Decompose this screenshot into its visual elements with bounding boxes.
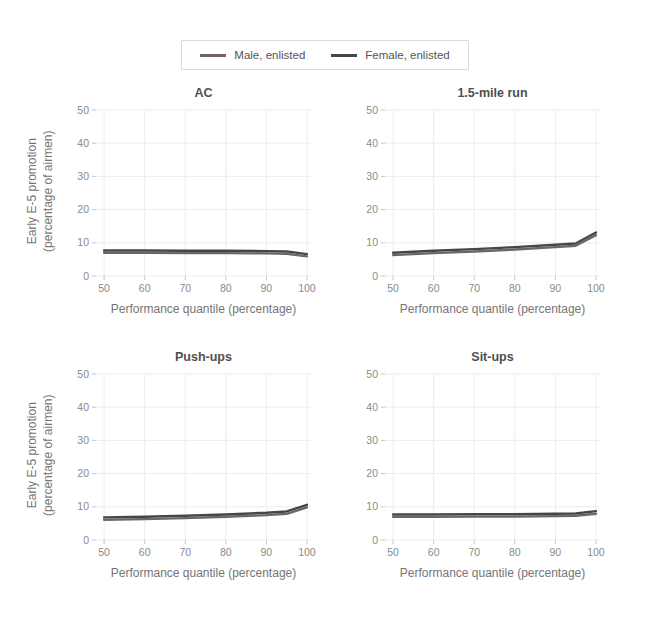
y-axis-label-top: Early E-5 promotion (percentage of airme… [18, 185, 62, 217]
plot-area: 010203040505060708090100 [62, 102, 321, 302]
svg-text:20: 20 [77, 203, 89, 215]
chart-situps-plot: 010203040505060708090100 [351, 366, 610, 566]
y-axis-label-text: Early E-5 promotion (percentage of airme… [24, 130, 56, 251]
chart-ac-plot: 010203040505060708090100 [62, 102, 321, 302]
chart-ac-xlabel: Performance quantile (percentage) [62, 302, 321, 316]
legend-item-female: Female, enlisted [331, 49, 449, 61]
svg-text:90: 90 [550, 546, 562, 558]
svg-text:50: 50 [77, 104, 89, 116]
svg-text:10: 10 [366, 500, 378, 512]
svg-text:90: 90 [261, 282, 273, 294]
plot-area: 010203040505060708090100 [351, 102, 610, 302]
legend-wrap: Male, enlisted Female, enlisted [0, 0, 650, 70]
svg-text:70: 70 [468, 546, 480, 558]
y-axis-label-line1: Early E-5 promotion [24, 394, 40, 515]
chart-pushups: Push-ups 010203040505060708090100 Perfor… [62, 350, 321, 580]
y-axis-label-text: Early E-5 promotion (percentage of airme… [24, 394, 56, 515]
series-line [393, 511, 596, 514]
svg-text:90: 90 [261, 546, 273, 558]
chart-run-xlabel: Performance quantile (percentage) [351, 302, 610, 316]
chart-run: 1.5-mile run 010203040505060708090100 Pe… [351, 86, 610, 316]
y-axis-label-line1: Early E-5 promotion [24, 130, 40, 251]
svg-text:80: 80 [220, 282, 232, 294]
svg-text:50: 50 [387, 546, 399, 558]
svg-text:10: 10 [366, 236, 378, 248]
svg-text:70: 70 [179, 282, 191, 294]
svg-text:70: 70 [179, 546, 191, 558]
svg-text:80: 80 [509, 282, 521, 294]
svg-text:30: 30 [366, 170, 378, 182]
chart-ac: AC 010203040505060708090100 Performance … [62, 86, 321, 316]
svg-text:50: 50 [366, 104, 378, 116]
y-axis-label-bottom: Early E-5 promotion (percentage of airme… [18, 449, 62, 481]
plot-area: 010203040505060708090100 [351, 366, 610, 566]
series-line [104, 253, 307, 257]
svg-text:0: 0 [83, 270, 89, 282]
svg-text:10: 10 [77, 236, 89, 248]
legend-item-male: Male, enlisted [200, 49, 305, 61]
chart-situps-xlabel: Performance quantile (percentage) [351, 566, 610, 580]
plot-area: 010203040505060708090100 [62, 366, 321, 566]
svg-text:50: 50 [98, 282, 110, 294]
svg-text:100: 100 [298, 546, 316, 558]
chart-row-top: Early E-5 promotion (percentage of airme… [18, 86, 650, 316]
svg-text:80: 80 [220, 546, 232, 558]
legend-label-male: Male, enlisted [234, 49, 305, 61]
legend-label-female: Female, enlisted [365, 49, 449, 61]
svg-text:60: 60 [139, 282, 151, 294]
svg-text:30: 30 [77, 434, 89, 446]
svg-text:10: 10 [77, 500, 89, 512]
svg-text:40: 40 [77, 401, 89, 413]
svg-text:0: 0 [83, 534, 89, 546]
chart-situps: Sit-ups 010203040505060708090100 Perform… [351, 350, 610, 580]
figure-page: Male, enlisted Female, enlisted Early E-… [0, 0, 650, 624]
male-line-swatch [200, 54, 226, 57]
svg-text:80: 80 [509, 546, 521, 558]
svg-text:40: 40 [77, 137, 89, 149]
chart-pushups-plot: 010203040505060708090100 [62, 366, 321, 566]
female-line-swatch [331, 54, 357, 57]
chart-pushups-title: Push-ups [62, 350, 321, 364]
svg-text:40: 40 [366, 401, 378, 413]
svg-text:0: 0 [372, 534, 378, 546]
svg-text:100: 100 [298, 282, 316, 294]
y-axis-label-line2: (percentage of airmen) [40, 394, 56, 515]
chart-situps-title: Sit-ups [351, 350, 610, 364]
chart-pushups-xlabel: Performance quantile (percentage) [62, 566, 321, 580]
chart-grid: Early E-5 promotion (percentage of airme… [0, 86, 650, 580]
chart-run-plot: 010203040505060708090100 [351, 102, 610, 302]
svg-text:60: 60 [428, 546, 440, 558]
chart-run-title: 1.5-mile run [351, 86, 610, 100]
svg-text:50: 50 [387, 282, 399, 294]
svg-text:20: 20 [77, 467, 89, 479]
svg-text:100: 100 [587, 282, 605, 294]
svg-text:90: 90 [550, 282, 562, 294]
svg-text:30: 30 [366, 434, 378, 446]
svg-text:20: 20 [366, 203, 378, 215]
svg-text:0: 0 [372, 270, 378, 282]
legend: Male, enlisted Female, enlisted [181, 40, 468, 70]
svg-text:70: 70 [468, 282, 480, 294]
svg-text:40: 40 [366, 137, 378, 149]
chart-row-bottom: Early E-5 promotion (percentage of airme… [18, 350, 650, 580]
svg-text:50: 50 [366, 368, 378, 380]
svg-text:50: 50 [77, 368, 89, 380]
svg-text:60: 60 [139, 546, 151, 558]
svg-text:100: 100 [587, 546, 605, 558]
svg-text:60: 60 [428, 282, 440, 294]
y-axis-label-line2: (percentage of airmen) [40, 130, 56, 251]
svg-text:20: 20 [366, 467, 378, 479]
svg-text:50: 50 [98, 546, 110, 558]
svg-text:30: 30 [77, 170, 89, 182]
chart-ac-title: AC [62, 86, 321, 100]
